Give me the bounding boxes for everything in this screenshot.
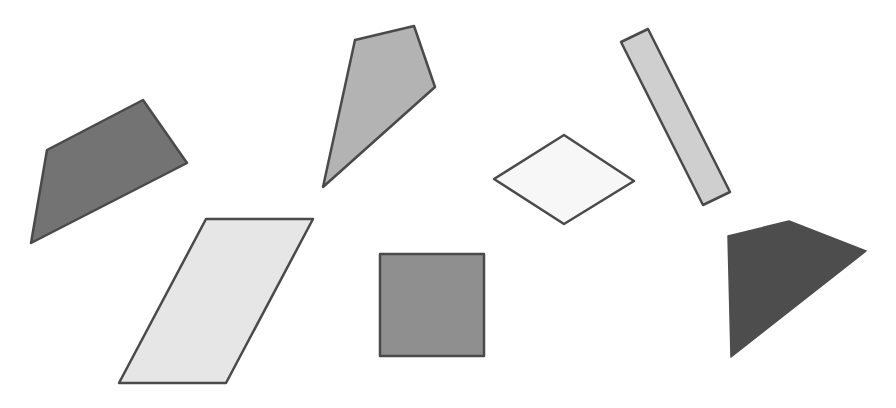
square [380,254,484,356]
shapes-canvas [0,0,896,408]
thin-rectangle [621,29,730,205]
dark-quadrilateral-right [728,221,866,357]
parallelogram [119,219,313,383]
dark-quadrilateral-left [31,100,187,243]
rhombus [494,135,634,224]
kite [323,26,435,187]
